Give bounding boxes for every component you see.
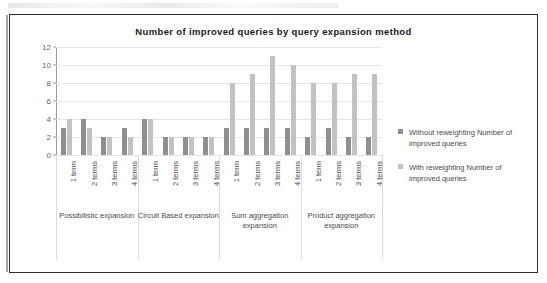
bar xyxy=(366,137,371,155)
x-axis-tick-label: 3 terms xyxy=(273,159,282,205)
bar xyxy=(250,74,255,155)
y-axis-tick-mark xyxy=(53,101,56,102)
x-axis-group-label: Circuit Based expansion xyxy=(138,211,220,221)
bar xyxy=(285,128,290,155)
bar xyxy=(107,137,112,155)
legend-item-label: Without reweighting Number of improved q… xyxy=(409,128,512,148)
x-axis-tick-label: 4 terms xyxy=(293,159,302,205)
x-axis-tick-label: 1 term xyxy=(232,159,241,205)
x-axis-tick-label: 1 term xyxy=(151,159,160,205)
chart-legend: Without reweighting Number of improved q… xyxy=(398,127,530,197)
bar xyxy=(291,65,296,155)
y-axis-tick-mark xyxy=(53,83,56,84)
bar xyxy=(224,128,229,155)
x-axis-group-label: Product aggregation expansion xyxy=(301,211,383,231)
category-separator xyxy=(56,156,57,260)
bar xyxy=(148,119,153,155)
y-axis-tick-label: 10 xyxy=(42,61,51,70)
x-axis-tick-label: 3 terms xyxy=(110,159,119,205)
bar xyxy=(244,128,249,155)
x-axis-tick-label: 3 terms xyxy=(354,159,363,205)
bar xyxy=(169,137,174,155)
bar xyxy=(352,74,357,155)
x-axis-group-label: Sum aggregation expansion xyxy=(219,211,301,231)
y-axis-tick-mark xyxy=(53,47,56,48)
legend-item[interactable]: With reweighting Number of improved quer… xyxy=(398,162,530,184)
y-axis-tick-mark xyxy=(53,137,56,138)
y-axis-tick-label: 12 xyxy=(42,43,51,52)
chart-frame: Number of improved queries by query expa… xyxy=(9,14,538,273)
scan-artifact xyxy=(8,3,338,8)
bar xyxy=(128,137,133,155)
legend-color-swatch xyxy=(398,164,403,169)
x-axis-tick-label: 1 term xyxy=(69,159,78,205)
y-axis-tick-mark xyxy=(53,65,56,66)
x-axis-tick-label: 1 term xyxy=(314,159,323,205)
x-axis-tick-label: 2 terms xyxy=(171,159,180,205)
bar xyxy=(264,128,269,155)
bar xyxy=(203,137,208,155)
y-axis-tick-mark xyxy=(53,119,56,120)
bar xyxy=(189,137,194,155)
x-axis-group-label: Possibilistic expansion xyxy=(56,211,138,221)
bar xyxy=(346,137,351,155)
x-axis-tick-label: 2 terms xyxy=(253,159,262,205)
y-axis-tick-label: 4 xyxy=(47,115,51,124)
chart-title: Number of improved queries by query expa… xyxy=(10,26,537,37)
gridline xyxy=(56,65,382,66)
bar xyxy=(311,83,316,155)
bar xyxy=(230,83,235,155)
x-axis-tick-label: 2 terms xyxy=(334,159,343,205)
y-axis-tick-label: 2 xyxy=(47,133,51,142)
gridline xyxy=(56,47,382,48)
bar xyxy=(101,137,106,155)
bar xyxy=(270,56,275,155)
bar xyxy=(163,137,168,155)
bar xyxy=(305,137,310,155)
legend-item-label: With reweighting Number of improved quer… xyxy=(409,163,502,183)
plot-area: 024681012 xyxy=(56,47,382,155)
x-axis-tick-label: 2 terms xyxy=(90,159,99,205)
x-axis-tick-label: 4 terms xyxy=(130,159,139,205)
legend-item[interactable]: Without reweighting Number of improved q… xyxy=(398,127,530,149)
bar xyxy=(183,137,188,155)
bar xyxy=(142,119,147,155)
bar xyxy=(81,119,86,155)
y-axis-tick-label: 0 xyxy=(47,151,51,160)
y-axis-tick-label: 8 xyxy=(47,79,51,88)
bar xyxy=(67,119,72,155)
bar xyxy=(122,128,127,155)
bar xyxy=(209,137,214,155)
bar xyxy=(372,74,377,155)
x-axis-tick-label: 4 terms xyxy=(212,159,221,205)
bar xyxy=(61,128,66,155)
legend-color-swatch xyxy=(398,129,403,134)
x-axis-tick-label: 3 terms xyxy=(191,159,200,205)
bar xyxy=(87,128,92,155)
bar xyxy=(332,83,337,155)
x-axis-tick-label: 4 terms xyxy=(375,159,384,205)
y-axis-tick-label: 6 xyxy=(47,97,51,106)
bar xyxy=(326,128,331,155)
